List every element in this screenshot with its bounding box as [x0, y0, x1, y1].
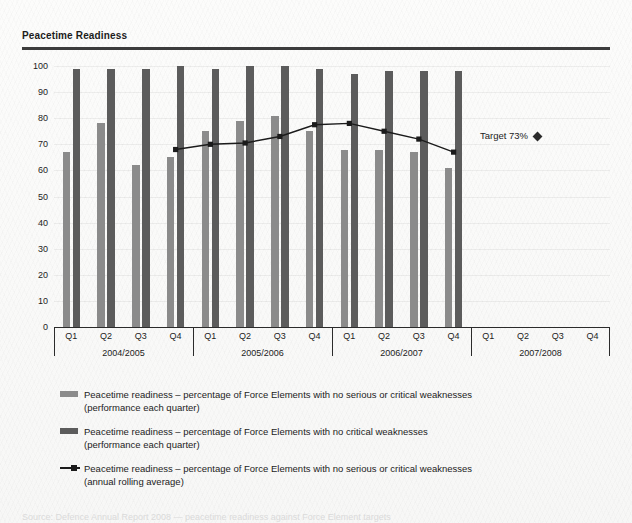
y-axis-tick-label: 50: [22, 193, 48, 202]
year-separator: [332, 328, 333, 356]
x-axis-quarter-label: Q4: [301, 331, 329, 342]
rolling-average-polyline: [176, 123, 454, 152]
x-axis-quarter-label: Q2: [92, 331, 120, 342]
line-data-point: [347, 121, 352, 126]
x-axis-quarter-label: Q3: [127, 331, 155, 342]
y-axis-tick-label: 80: [22, 114, 48, 123]
x-axis-quarter-label: Q1: [474, 331, 502, 342]
footnote-text: Source: Defence Annual Report 2008 — pea…: [22, 512, 610, 523]
x-axis-quarter-label: Q4: [162, 331, 190, 342]
legend-item: Peacetime readiness – percentage of Forc…: [60, 425, 620, 451]
legend-sublabel: (performance each quarter): [84, 438, 620, 451]
legend-swatch-icon: [60, 428, 78, 434]
chart-header: Peacetime Readiness: [22, 30, 610, 50]
x-axis-year-label: 2005/2006: [223, 348, 303, 359]
line-data-point: [382, 129, 387, 134]
x-axis-quarter-label: Q1: [335, 331, 363, 342]
x-axis-quarter-label: Q4: [440, 331, 468, 342]
x-axis-year-label: 2007/2008: [501, 348, 581, 359]
year-separator: [54, 328, 55, 356]
line-data-point: [243, 140, 248, 145]
legend-item: Peacetime readiness – percentage of Forc…: [60, 462, 620, 488]
year-separator: [471, 328, 472, 356]
x-axis-labels: Q1Q2Q3Q4Q1Q2Q3Q4Q1Q2Q3Q4Q1Q2Q3Q42004/200…: [22, 331, 610, 367]
y-axis-tick-label: 70: [22, 140, 48, 149]
legend-line-marker-icon: [60, 463, 80, 472]
line-data-point: [312, 122, 317, 127]
line-data-point: [173, 147, 178, 152]
legend-label: Peacetime readiness – percentage of Forc…: [84, 388, 620, 401]
x-axis-quarter-label: Q3: [266, 331, 294, 342]
line-data-point: [416, 136, 421, 141]
y-axis-tick-label: 90: [22, 88, 48, 97]
legend-item: Peacetime readiness – percentage of Forc…: [60, 388, 620, 414]
chart-legend: Peacetime readiness – percentage of Forc…: [60, 388, 620, 499]
line-data-point: [451, 150, 456, 155]
plot-area: 0102030405060708090100: [22, 66, 610, 328]
x-axis-quarter-label: Q2: [509, 331, 537, 342]
y-axis-tick-label: 10: [22, 297, 48, 306]
x-axis-quarter-label: Q1: [196, 331, 224, 342]
legend-swatch-icon: [60, 391, 78, 397]
line-data-point: [277, 134, 282, 139]
legend-label: Peacetime readiness – percentage of Forc…: [84, 425, 620, 438]
x-axis-quarter-label: Q1: [57, 331, 85, 342]
y-axis-tick-label: 30: [22, 245, 48, 254]
y-axis-tick-label: 60: [22, 166, 48, 175]
y-axis-tick-label: 100: [22, 62, 48, 71]
page-title: Peacetime Readiness: [22, 30, 610, 42]
y-axis-tick-label: 40: [22, 219, 48, 228]
x-axis-year-label: 2004/2005: [84, 348, 164, 359]
chart-page: Peacetime Readiness 01020304050607080901…: [0, 0, 632, 523]
y-axis-tick-label: 20: [22, 271, 48, 280]
x-axis-quarter-label: Q2: [370, 331, 398, 342]
rolling-average-line: [54, 66, 610, 328]
x-axis-quarter-label: Q3: [405, 331, 433, 342]
x-axis-quarter-label: Q3: [544, 331, 572, 342]
x-axis-year-label: 2006/2007: [362, 348, 442, 359]
year-separator: [193, 328, 194, 356]
target-annotation: Target 73%: [480, 131, 541, 141]
legend-label: Peacetime readiness – percentage of Forc…: [84, 462, 620, 475]
year-separator: [609, 328, 610, 356]
x-axis-quarter-label: Q2: [231, 331, 259, 342]
legend-sublabel: (performance each quarter): [84, 401, 620, 414]
target-label: Target 73%: [480, 131, 528, 141]
legend-sublabel: (annual rolling average): [84, 475, 620, 488]
diamond-marker-icon: [533, 132, 543, 142]
line-data-point: [208, 142, 213, 147]
x-axis-quarter-label: Q4: [579, 331, 607, 342]
header-rule: [22, 47, 610, 50]
